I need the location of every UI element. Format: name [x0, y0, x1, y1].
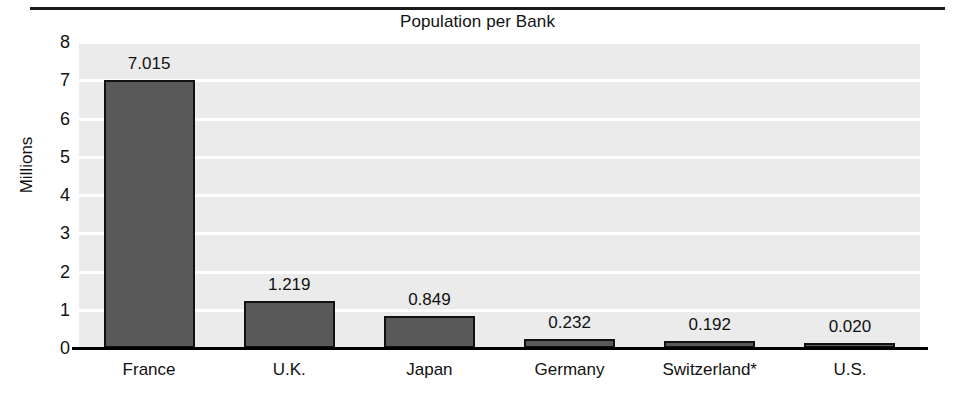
bar-value-label: 0.849: [369, 291, 489, 308]
x-axis-baseline: [72, 347, 928, 350]
bar-value-label: 0.192: [650, 316, 770, 333]
gridline: [79, 118, 920, 121]
x-axis-tick-label: France: [69, 361, 229, 378]
gridline: [79, 194, 920, 197]
x-axis-tick-label: Switzerland*: [630, 361, 790, 378]
x-axis-tick-label: U.K.: [209, 361, 369, 378]
bar-france: [104, 80, 195, 348]
x-axis-tick-label: Germany: [490, 361, 650, 378]
y-axis-tick: 8: [44, 33, 70, 51]
plot-area: [79, 42, 920, 348]
bar-value-label: 7.015: [89, 55, 209, 72]
x-axis-tick-label: Japan: [349, 361, 509, 378]
gridline: [79, 41, 920, 44]
top-divider-rule: [30, 7, 945, 10]
bar-value-label: 0.020: [790, 318, 910, 335]
y-axis-tick: 5: [44, 148, 70, 166]
x-axis-tick-label: U.S.: [770, 361, 930, 378]
bar-value-label: 1.219: [229, 276, 349, 293]
bar-value-label: 0.232: [510, 314, 630, 331]
y-axis-tick: 3: [44, 224, 70, 242]
y-axis-tick-labels: 012345678: [40, 0, 70, 400]
bar-u-k: [244, 301, 335, 348]
y-axis-tick: 2: [44, 263, 70, 281]
gridline: [79, 156, 920, 159]
page-title: Population per Bank: [0, 12, 955, 32]
y-axis-label: Millions: [17, 110, 37, 220]
gridline: [79, 309, 920, 312]
gridline: [79, 271, 920, 274]
y-axis-tick: 1: [44, 301, 70, 319]
y-axis-tick: 0: [44, 339, 70, 357]
y-axis-tick: 4: [44, 186, 70, 204]
gridline: [79, 79, 920, 82]
gridline: [79, 232, 920, 235]
bar-japan: [384, 316, 475, 348]
y-axis-tick: 7: [44, 71, 70, 89]
y-axis-tick: 6: [44, 110, 70, 128]
